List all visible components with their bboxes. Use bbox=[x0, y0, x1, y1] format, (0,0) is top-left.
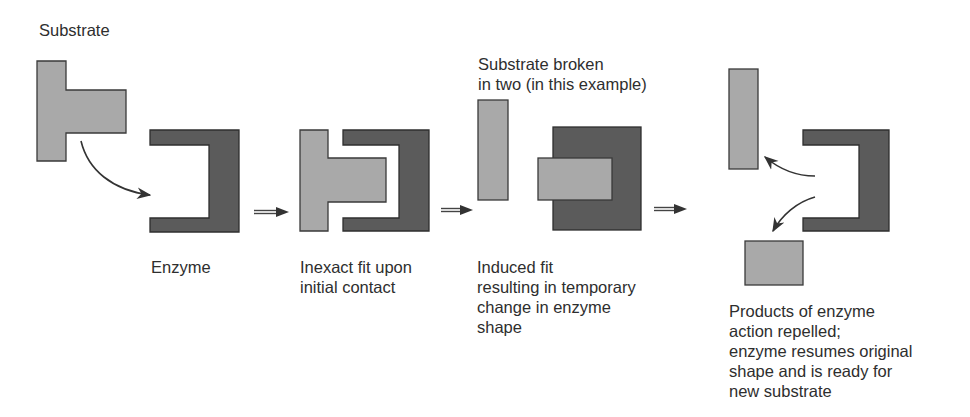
label-inexact-fit: Inexact fit upon initial contact bbox=[300, 257, 412, 297]
substrate-fragment-vertical bbox=[478, 100, 508, 200]
transition-arrow-icon bbox=[441, 205, 473, 215]
label-enzyme: Enzyme bbox=[151, 257, 211, 277]
label-line: new substrate bbox=[729, 381, 912, 401]
label-line: Inexact fit upon bbox=[300, 257, 412, 277]
label-line: shape and is ready for bbox=[729, 361, 912, 381]
substrate-to-enzyme-arrow bbox=[81, 141, 150, 195]
label-line: Induced fit bbox=[477, 257, 636, 277]
label-line: Substrate broken bbox=[478, 54, 647, 74]
product-vertical bbox=[729, 69, 758, 169]
label-substrate-broken: Substrate broken in two (in this example… bbox=[478, 54, 647, 94]
label-line: initial contact bbox=[300, 277, 412, 297]
label-line: resulting in temporary bbox=[477, 277, 636, 297]
label-line: enzyme resumes original bbox=[729, 341, 912, 361]
transition-arrow-icon bbox=[254, 207, 289, 217]
substrate-fragment-bound bbox=[538, 158, 612, 200]
product-horizontal bbox=[745, 241, 803, 285]
label-substrate: Substrate bbox=[39, 20, 110, 40]
substrate-shape bbox=[37, 61, 126, 161]
label-induced-fit: Induced fit resulting in temporary chang… bbox=[477, 257, 636, 337]
label-line: in two (in this example) bbox=[478, 74, 647, 94]
enzyme-shape bbox=[150, 130, 239, 232]
label-line: shape bbox=[477, 317, 636, 337]
transition-arrow-icon bbox=[654, 204, 687, 214]
label-line: change in enzyme bbox=[477, 297, 636, 317]
label-line: Products of enzyme bbox=[729, 301, 912, 321]
label-line: action repelled; bbox=[729, 321, 912, 341]
enzyme-restored-shape bbox=[803, 130, 889, 231]
product-repelled-arrow-up bbox=[765, 157, 815, 176]
label-products: Products of enzyme action repelled; enzy… bbox=[729, 301, 912, 401]
